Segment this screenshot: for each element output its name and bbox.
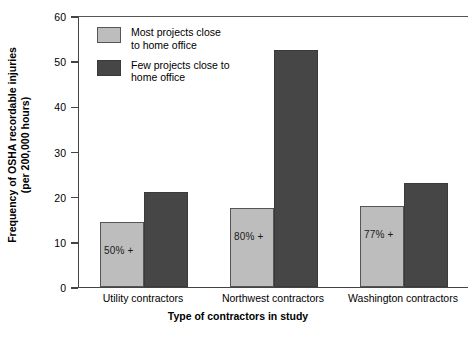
y-ticklabel-60: 60 xyxy=(6,11,66,23)
bar-annotation-2: 77% + xyxy=(364,229,394,240)
legend-label-few-projects-line2: home office xyxy=(131,71,185,83)
x-ticklabel-2: Washington contractors xyxy=(348,292,458,304)
y-tick-40 xyxy=(71,107,78,109)
legend-swatch-dark xyxy=(97,60,121,76)
bar-few-0 xyxy=(144,192,188,287)
y-tick-0 xyxy=(71,287,78,289)
y-tick-20 xyxy=(71,197,78,199)
bar-few-1 xyxy=(274,50,318,287)
legend-label-few-projects-line1: Few projects close to xyxy=(131,59,230,71)
x-axis-label: Type of contractors in study xyxy=(0,310,476,322)
bar-annotation-1: 80% + xyxy=(234,231,264,242)
y-ticklabel-10: 10 xyxy=(6,237,66,249)
legend-label-most-projects-line1: Most projects close xyxy=(131,26,221,38)
chart-legend: Most projects closeto home office Few pr… xyxy=(97,26,230,84)
y-tick-50 xyxy=(71,61,78,63)
y-ticklabel-30: 30 xyxy=(6,147,66,159)
bar-most-1 xyxy=(230,208,274,287)
legend-label-most-projects-line2: to home office xyxy=(131,39,197,51)
legend-swatch-light xyxy=(97,27,121,43)
legend-label-few-projects: Few projects close tohome office xyxy=(131,59,230,85)
legend-label-most-projects: Most projects closeto home office xyxy=(131,26,221,52)
bar-few-2 xyxy=(404,183,448,287)
y-ticklabel-0: 0 xyxy=(6,282,66,294)
bar-annotation-0: 50% + xyxy=(104,245,134,256)
legend-item-few-projects: Few projects close tohome office xyxy=(97,59,230,85)
bar-most-2 xyxy=(360,206,404,287)
x-ticklabel-1: Northwest contractors xyxy=(222,292,324,304)
legend-item-most-projects: Most projects closeto home office xyxy=(97,26,230,52)
y-tick-30 xyxy=(71,152,78,154)
y-tick-60 xyxy=(71,16,78,18)
bar-chart-figure: Frequency of OSHA recordable injuries (p… xyxy=(0,0,476,338)
y-tick-10 xyxy=(71,242,78,244)
x-ticklabel-0: Utility contractors xyxy=(103,292,184,304)
y-ticklabel-40: 40 xyxy=(6,101,66,113)
y-ticklabel-20: 20 xyxy=(6,192,66,204)
y-ticklabel-50: 50 xyxy=(6,56,66,68)
y-axis-label-line1: Frequency of OSHA recordable injuries xyxy=(6,47,19,243)
